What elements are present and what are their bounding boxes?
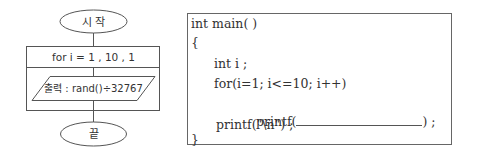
output-label: 출력 : rand()÷32767 — [44, 83, 143, 94]
code-line-6: printf("\n") ; — [216, 117, 293, 133]
code-line-2: { — [191, 35, 199, 51]
fill-in-blank — [296, 113, 422, 126]
printf-close: ) ; — [422, 114, 435, 129]
code-line-7: } — [191, 132, 199, 148]
code-line-3: int i ; — [214, 56, 247, 72]
code-line-4: for(i=1; i<=10; i++) — [214, 76, 346, 92]
code-line-1: int main( ) — [191, 16, 257, 32]
loop-label: for i = 1 , 10 , 1 — [52, 51, 135, 63]
end-label: 끝 — [89, 128, 99, 141]
code-box: int main( ) { int i ; for(i=1; i<=10; i+… — [187, 13, 452, 145]
start-label: 시 작 — [82, 16, 106, 29]
